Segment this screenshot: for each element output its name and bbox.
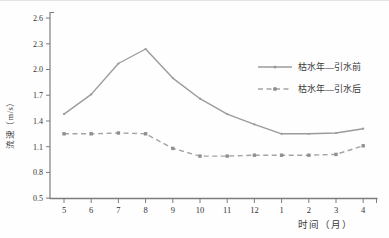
y-tick-label: 2.6	[33, 14, 43, 23]
series-0-marker	[362, 128, 364, 130]
x-tick-label: 8	[143, 205, 147, 215]
series-1-marker	[62, 132, 65, 135]
series-1-marker	[171, 147, 174, 150]
legend: 枯水年—引水前 枯水年—引水后	[258, 59, 361, 103]
chart-figure: 0.50.81.11.41.72.02.32.6567891011121234 …	[0, 0, 389, 238]
series-1-marker	[90, 132, 93, 135]
legend-dashed-line-icon	[258, 85, 292, 93]
x-tick-label: 5	[62, 205, 66, 215]
series-0-marker	[63, 113, 65, 115]
series-1-marker	[280, 154, 283, 157]
series-0-marker	[281, 133, 283, 135]
x-tick-label: 2	[307, 205, 311, 215]
y-tick-label: 2.3	[33, 40, 43, 49]
y-tick-label: 1.7	[33, 91, 43, 100]
series-0-marker	[172, 77, 174, 79]
x-tick-label: 11	[223, 205, 231, 215]
chart-canvas: 0.50.81.11.41.72.02.32.6567891011121234	[0, 1, 389, 238]
series-1-marker	[226, 154, 229, 157]
x-tick-label: 12	[250, 205, 259, 215]
series-1-marker	[198, 154, 201, 157]
y-tick-label: 2.0	[33, 65, 43, 74]
y-axis-title: 流速（m/s）	[3, 93, 15, 153]
series-0-marker	[226, 113, 228, 115]
legend-item-before-diversion: 枯水年—引水前	[258, 59, 361, 74]
series-0-marker	[199, 98, 201, 100]
y-tick-label: 0.8	[33, 168, 43, 177]
series-0-marker	[335, 132, 337, 134]
y-tick-label: 0.5	[33, 194, 43, 203]
series-0-marker	[117, 62, 119, 64]
x-tick-label: 6	[89, 205, 93, 215]
series-line-1	[64, 133, 363, 156]
series-1-marker	[253, 154, 256, 157]
y-tick-label: 1.1	[33, 143, 43, 152]
series-0-marker	[253, 123, 255, 125]
legend-label-before-diversion: 枯水年—引水前	[298, 60, 361, 73]
series-1-marker	[307, 154, 310, 157]
series-0-marker	[90, 93, 92, 95]
x-tick-label: 4	[361, 205, 366, 215]
series-1-marker	[144, 132, 147, 135]
series-1-marker	[362, 144, 365, 147]
x-tick-label: 7	[116, 205, 120, 215]
legend-item-after-diversion: 枯水年—引水后	[258, 81, 361, 96]
series-1-marker	[334, 153, 337, 156]
series-0-marker	[145, 48, 147, 50]
x-tick-label: 9	[171, 205, 175, 215]
series-1-marker	[117, 131, 120, 134]
x-tick-label: 3	[334, 205, 338, 215]
y-tick-label: 1.4	[33, 117, 43, 126]
series-0-marker	[308, 133, 310, 135]
legend-solid-line-icon	[258, 63, 292, 71]
x-tick-label: 1	[279, 205, 283, 215]
x-axis-title: 时间（月）	[298, 217, 353, 231]
legend-label-after-diversion: 枯水年—引水后	[298, 82, 361, 95]
x-tick-label: 10	[196, 205, 205, 215]
